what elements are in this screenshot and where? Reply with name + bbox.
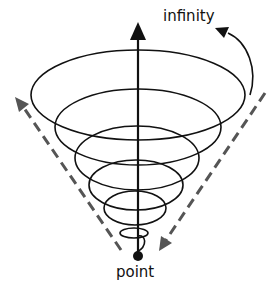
right-dashed-arrow — [159, 93, 265, 251]
origin-point-dot — [133, 251, 143, 261]
vertical-axis-arrow — [130, 22, 146, 255]
curved-arrow-to-infinity — [215, 27, 253, 95]
left-dashed-arrow — [15, 97, 121, 250]
axis-arrowhead-icon — [130, 22, 146, 40]
point-label: point — [116, 263, 154, 281]
spiral-ring-6 — [120, 228, 148, 238]
infinity-label: infinity — [163, 7, 215, 25]
spiral-diagram — [0, 0, 278, 295]
curved-arrowhead-icon — [215, 27, 229, 38]
